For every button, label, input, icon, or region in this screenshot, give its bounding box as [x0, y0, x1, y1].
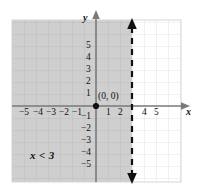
- y-axis-arrowhead: [92, 10, 100, 19]
- x-tick-label--4: −4: [33, 108, 43, 118]
- x-tick-label-4: 4: [142, 108, 147, 118]
- x-tick-label--3: −3: [46, 108, 56, 118]
- x-tick-label-5: 5: [154, 108, 159, 118]
- x-tick-label--5: −5: [19, 108, 29, 118]
- y-tick-label-1: 1: [86, 89, 91, 99]
- y-tick-label--2: −2: [81, 124, 91, 134]
- origin-point: [93, 103, 99, 109]
- y-axis-label: y: [83, 13, 87, 23]
- x-tick-label--2: −2: [59, 108, 69, 118]
- x-tick-label-1: 1: [106, 108, 111, 118]
- y-tick-label-5: 5: [86, 41, 91, 51]
- y-tick-label-4: 4: [86, 53, 91, 63]
- x-tick-label-2: 2: [118, 108, 123, 118]
- origin-point-label: (0, 0): [98, 92, 119, 102]
- inequality-label: x < 3: [30, 150, 55, 161]
- y-tick-label--1: −1: [81, 112, 91, 122]
- y-tick-label--3: −3: [81, 136, 91, 146]
- y-tick-label--5: −5: [81, 160, 91, 170]
- y-tick-label--4: −4: [81, 148, 91, 158]
- inequality-graph-figure: y x (0, 0) x < 3 −5 −4 −3 −2 −1 1 2 4 5 …: [0, 0, 197, 196]
- x-axis-label: x: [186, 107, 191, 117]
- y-tick-label-3: 3: [86, 65, 91, 75]
- y-tick-label-2: 2: [86, 77, 91, 87]
